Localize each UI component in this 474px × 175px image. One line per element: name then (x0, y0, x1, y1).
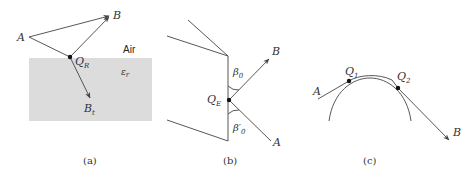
point-a-label: A (272, 136, 281, 149)
curved-surface (329, 78, 411, 121)
incident-ray (29, 37, 70, 57)
point-a-label: A (16, 31, 25, 44)
incident-ray (229, 100, 271, 141)
incident-ray (318, 81, 349, 99)
direct-ray (29, 16, 109, 37)
ray-diagram-figure: A B QR Bt Air εr (a) B A QE β0 β′0 (b) A… (0, 0, 474, 175)
point-b-label: B (452, 126, 461, 139)
air-label: Air (123, 44, 136, 55)
wedge-face-bottom (167, 120, 228, 141)
panel-c: A B Q1 Q2 (c) (312, 65, 461, 166)
edge-point-label: QE (207, 93, 221, 108)
angle-bottom-label: β′0 (232, 122, 246, 136)
wedge-face-top-1 (188, 20, 228, 56)
point-q2-dot (396, 86, 400, 90)
point-b-label: B (271, 45, 280, 58)
reflected-ray (70, 17, 109, 57)
point-a-label: A (312, 85, 321, 98)
point-q1-dot (347, 79, 351, 83)
reflection-point-dot (68, 55, 72, 59)
reflection-point-label: QR (75, 55, 90, 70)
panel-b: B A QE β0 β′0 (b) (167, 20, 281, 166)
point-b-label: B (112, 9, 121, 22)
angle-arc-top (228, 86, 239, 90)
wedge-face-top-2 (167, 36, 228, 56)
angle-top-label: β0 (232, 66, 244, 80)
angle-arc-bottom (228, 110, 239, 114)
panel-a: A B QR Bt Air εr (a) (16, 9, 152, 166)
point-q2-label: Q2 (397, 70, 411, 85)
edge-point-dot (227, 98, 231, 102)
caption-a: (a) (83, 155, 97, 166)
caption-b: (b) (223, 155, 237, 166)
caption-c: (c) (363, 155, 377, 166)
point-q1-label: Q1 (345, 65, 359, 80)
shed-ray (398, 88, 449, 140)
